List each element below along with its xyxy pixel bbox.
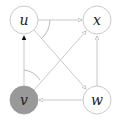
node-w: w [83, 86, 111, 114]
node-v-label: v [20, 92, 28, 108]
angle-mark-u [42, 20, 50, 38]
node-u: u [10, 6, 38, 34]
angle-mark-v [24, 70, 40, 80]
node-x: x [83, 6, 111, 34]
graph-diagram: u x v w [0, 0, 117, 121]
node-x-label: x [93, 12, 101, 28]
node-w-label: w [91, 92, 103, 108]
edge-u-w [34, 30, 86, 89]
node-v: v [10, 86, 38, 114]
edge-v-x [34, 31, 86, 90]
node-u-label: u [19, 12, 28, 28]
